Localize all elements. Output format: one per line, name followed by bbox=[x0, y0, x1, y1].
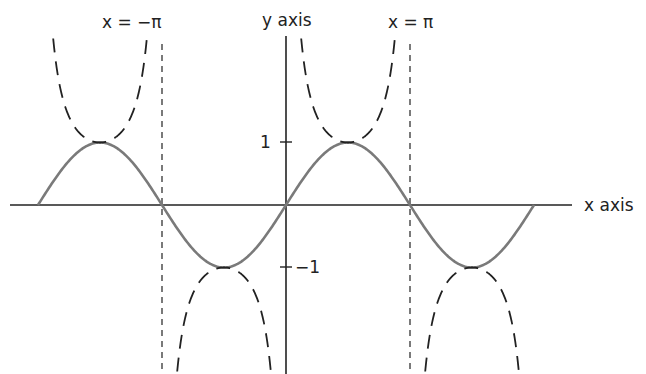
cosecant-branch-0 bbox=[53, 39, 147, 143]
label-x-neg-pi: x = −π bbox=[102, 12, 162, 32]
cosecant-branch-2 bbox=[301, 39, 395, 143]
trig-diagram: x = −π y axis x = π 1 −1 x axis bbox=[0, 0, 646, 374]
label-x-axis: x axis bbox=[584, 195, 634, 215]
cosecant-branch-1 bbox=[177, 268, 271, 372]
label-y-axis: y axis bbox=[262, 10, 312, 30]
cosecant-branch-3 bbox=[425, 268, 519, 372]
label-x-pi: x = π bbox=[388, 12, 433, 32]
tick-label-neg1: −1 bbox=[295, 257, 320, 277]
tick-label-pos1: 1 bbox=[260, 132, 271, 152]
